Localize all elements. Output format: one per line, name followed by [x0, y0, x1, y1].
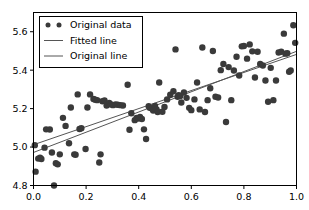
data-point	[124, 82, 130, 88]
data-point	[273, 77, 279, 83]
x-axis-ticks: 0.00.20.40.60.81.0	[26, 186, 304, 202]
data-point	[161, 104, 167, 110]
data-point	[82, 146, 88, 152]
data-point	[284, 50, 290, 56]
figure-canvas: 0.00.20.40.60.81.0 4.85.05.25.45.6 Origi…	[0, 0, 309, 210]
data-point	[126, 127, 132, 133]
data-point	[252, 74, 258, 80]
data-point	[72, 152, 78, 158]
data-point	[141, 126, 147, 132]
data-point	[199, 44, 205, 50]
data-point	[290, 22, 296, 28]
legend: Original dataFitted lineOriginal line	[40, 17, 143, 68]
data-point	[210, 48, 216, 54]
data-point	[231, 67, 237, 73]
x-tick-label: 0.4	[131, 191, 146, 202]
data-point	[66, 140, 72, 146]
data-point	[268, 65, 274, 71]
data-point	[228, 97, 234, 103]
data-point	[78, 125, 84, 131]
data-point	[241, 43, 247, 49]
data-point	[204, 97, 210, 103]
y-tick-label: 5.2	[12, 103, 27, 114]
data-point	[57, 151, 63, 157]
data-point	[270, 97, 276, 103]
legend-marker-icon	[46, 23, 51, 28]
data-point	[156, 79, 162, 85]
data-point	[96, 159, 102, 165]
data-point	[94, 97, 100, 103]
data-point	[60, 115, 66, 121]
legend-label: Original data	[70, 19, 132, 30]
legend-label: Original line	[70, 50, 127, 61]
data-point	[207, 85, 213, 91]
data-point	[202, 109, 208, 115]
data-point	[54, 161, 60, 167]
x-tick-label: 0.0	[26, 191, 41, 202]
data-point	[128, 110, 134, 116]
y-tick-label: 5.0	[12, 141, 27, 152]
x-tick-label: 0.2	[79, 191, 94, 202]
data-point	[74, 91, 80, 97]
data-point	[143, 136, 149, 142]
data-point	[281, 30, 287, 36]
data-point	[38, 156, 44, 162]
data-point	[244, 55, 250, 61]
data-point	[191, 96, 197, 102]
data-point	[288, 67, 294, 73]
data-point	[236, 72, 242, 78]
data-point	[41, 144, 47, 150]
data-point	[262, 77, 268, 83]
data-point	[215, 94, 221, 100]
data-point	[62, 123, 68, 129]
data-point	[218, 67, 224, 73]
data-point	[178, 99, 184, 105]
scatter-plot: 0.00.20.40.60.81.0 4.85.05.25.45.6 Origi…	[0, 0, 309, 210]
x-tick-label: 1.0	[289, 191, 304, 202]
y-tick-label: 5.4	[12, 65, 27, 76]
data-point	[188, 107, 194, 113]
data-point	[225, 64, 231, 70]
data-point	[47, 126, 53, 132]
legend-label: Fitted line	[70, 35, 117, 46]
y-tick-label: 4.8	[12, 180, 27, 191]
x-tick-label: 0.6	[184, 191, 199, 202]
data-point	[292, 40, 298, 46]
data-point	[68, 104, 74, 110]
y-axis-ticks: 4.85.05.25.45.6	[12, 26, 33, 191]
data-point	[170, 88, 176, 94]
data-point	[223, 119, 229, 125]
data-point	[139, 116, 145, 122]
data-point	[246, 41, 252, 47]
data-point	[254, 49, 260, 55]
data-point	[84, 104, 90, 110]
data-point	[49, 149, 55, 155]
data-point	[172, 46, 178, 52]
data-point	[120, 102, 126, 108]
x-tick-label: 0.8	[236, 191, 251, 202]
data-point	[194, 79, 200, 85]
data-point	[183, 95, 189, 101]
data-point	[97, 151, 103, 157]
data-point	[260, 62, 266, 68]
y-tick-label: 5.6	[12, 26, 27, 37]
data-point	[233, 54, 239, 60]
legend-marker-icon	[57, 23, 62, 28]
